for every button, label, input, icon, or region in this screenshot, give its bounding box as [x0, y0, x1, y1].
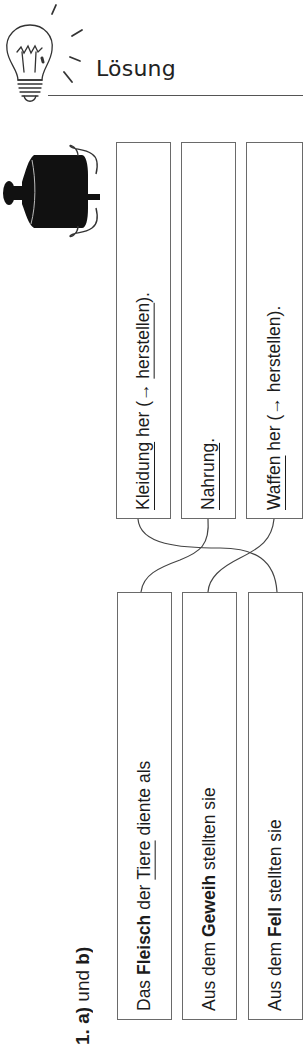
- task-connector: und: [72, 970, 93, 1002]
- beginning-text-meat: Das Fleisch der Tiere diente als: [134, 605, 155, 1011]
- beginning-text-antlers: Aus dem Geweih stellten sie: [199, 605, 220, 1011]
- line-fleisch-nahrung: [141, 519, 208, 592]
- lightbulb-icon: [0, 0, 90, 110]
- task-part-b: b): [72, 947, 93, 965]
- cooking-pot-icon: [0, 120, 110, 250]
- beginning-box-antlers: Aus dem Geweih stellten sie: [182, 592, 237, 1020]
- ending-box-clothing: Kleidung her (→ herstellen).: [116, 142, 171, 519]
- heading-divider: [48, 95, 303, 96]
- beginning-text-fur: Aus dem Fell stellten sie: [265, 605, 286, 1011]
- line-geweih-waffen: [208, 519, 274, 592]
- ending-text-clothing: Kleidung her (→ herstellen).: [133, 151, 154, 510]
- ending-box-weapons: Waffen her (→ herstellen).: [246, 142, 303, 519]
- ending-text-weapons: Waffen her (→ herstellen).: [264, 151, 285, 510]
- ending-box-food: Nahrung.: [181, 142, 236, 519]
- task-number: 1.: [72, 1029, 93, 1045]
- solution-heading: Lösung: [96, 56, 176, 81]
- beginning-box-fur: Aus dem Fell stellten sie: [248, 592, 303, 1020]
- line-fell-kleidung: [138, 519, 277, 592]
- beginning-box-meat: Das Fleisch der Tiere diente als: [117, 592, 172, 1020]
- ending-text-food: Nahrung.: [198, 151, 219, 510]
- task-part-a: a): [72, 1007, 93, 1024]
- task-label: 1. a) und b): [72, 845, 98, 1045]
